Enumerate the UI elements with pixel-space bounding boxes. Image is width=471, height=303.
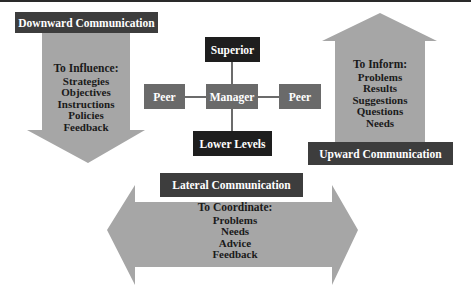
downward-communication-label: Downward Communication bbox=[15, 12, 158, 33]
downward-item: Objectives bbox=[42, 87, 130, 99]
upward-item: Results bbox=[335, 83, 425, 95]
upward-heading: To Inform: bbox=[335, 59, 425, 71]
downward-item: Policies bbox=[42, 110, 130, 122]
lateral-text: To Coordinate: Problems Needs Advice Fee… bbox=[180, 202, 290, 261]
peer-left-box: Peer bbox=[144, 84, 185, 109]
lateral-heading: To Coordinate: bbox=[180, 202, 290, 214]
upward-communication-label: Upward Communication bbox=[308, 142, 453, 165]
lower-levels-box: Lower Levels bbox=[193, 131, 272, 156]
upward-item: Needs bbox=[335, 118, 425, 130]
manager-box: Manager bbox=[206, 84, 258, 109]
downward-heading: To Influence: bbox=[42, 63, 130, 75]
downward-item: Feedback bbox=[42, 122, 130, 134]
superior-box: Superior bbox=[205, 37, 260, 62]
upward-item: Questions bbox=[335, 106, 425, 118]
lateral-item: Needs bbox=[180, 226, 290, 238]
downward-text: To Influence: Strategies Objectives Inst… bbox=[42, 63, 130, 133]
lateral-item: Feedback bbox=[180, 249, 290, 261]
lateral-communication-label: Lateral Communication bbox=[160, 173, 303, 197]
peer-right-box: Peer bbox=[279, 84, 321, 109]
upward-text: To Inform: Problems Results Suggestions … bbox=[335, 59, 425, 129]
